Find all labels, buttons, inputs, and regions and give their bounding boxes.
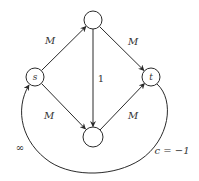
label-bottom-t: M <box>127 110 139 121</box>
label-return-cost: c = −1 <box>154 145 189 156</box>
label-return-capacity: ∞ <box>16 142 24 153</box>
edge-s-to-bottom <box>42 84 86 130</box>
node-s: s <box>26 68 44 86</box>
label-s-bottom: M <box>43 110 55 121</box>
edge-s-to-top <box>42 27 87 71</box>
node-bottom <box>83 127 103 147</box>
edge-bottom-to-t <box>100 84 145 131</box>
flow-network-diagram: s t M M M M 1 ∞ c = −1 <box>0 0 199 181</box>
node-t-label: t <box>149 72 153 82</box>
edge-top-to-t <box>100 27 145 71</box>
node-top <box>84 11 102 29</box>
node-s-label: s <box>33 72 38 82</box>
label-top-t: M <box>127 36 139 47</box>
label-s-top: M <box>44 35 56 46</box>
node-t: t <box>142 68 160 86</box>
label-top-bottom: 1 <box>98 73 104 84</box>
